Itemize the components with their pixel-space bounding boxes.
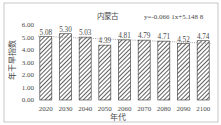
bar-value-label: 4.81	[118, 32, 131, 40]
chart-container: 0.001.002.003.004.005.006.00 5.085.305.0…	[0, 0, 221, 125]
bar-value-label: 5.08	[40, 29, 53, 37]
x-tick-label: 2090	[177, 105, 192, 113]
x-tick-label: 2030	[59, 105, 74, 113]
bar-value-label: 4.74	[197, 33, 210, 41]
y-tick-label: 5.00	[22, 34, 35, 42]
bar-2040	[79, 37, 91, 100]
bar-2080	[158, 41, 170, 100]
y-tick-label: 4.00	[22, 46, 35, 54]
bar-value-label: 4.71	[158, 33, 171, 41]
x-tick-label: 2040	[78, 105, 93, 113]
bar-2090	[178, 44, 190, 101]
x-tick-label: 2100	[196, 105, 211, 113]
bar-value-label: 4.39	[99, 37, 112, 45]
bar-2100	[197, 41, 209, 100]
y-tick-label: 3.00	[22, 59, 35, 67]
chart-title: 内蒙古	[97, 11, 119, 21]
x-tick-label: 2070	[137, 105, 152, 113]
x-axis-title: 年代	[110, 112, 126, 122]
trendline-equation: y=-0.066 1x+5.148 8	[144, 13, 204, 21]
y-axis-title: 年干旱指数	[7, 40, 17, 80]
y-tick-label: 0.00	[22, 96, 35, 104]
bars	[40, 34, 209, 100]
bar-chart: 0.001.002.003.004.005.006.00 5.085.305.0…	[0, 0, 221, 125]
bar-value-label: 4.79	[138, 32, 151, 40]
y-tick-label: 6.00	[22, 21, 35, 29]
x-tick-label: 2060	[118, 105, 133, 113]
x-tick-label: 2080	[157, 105, 172, 113]
x-tick-label: 2020	[39, 105, 54, 113]
y-tick-label: 1.00	[22, 84, 35, 92]
x-tick-label: 2050	[98, 105, 113, 113]
bar-2030	[60, 34, 72, 100]
bar-value-label: 4.52	[177, 36, 190, 44]
bar-value-label: 5.30	[59, 26, 72, 34]
y-tick-label: 2.00	[22, 71, 35, 79]
bar-2050	[99, 45, 111, 100]
bar-2070	[138, 40, 150, 100]
x-axis-ticks: 202020302040205020602070208020902100	[39, 105, 211, 113]
bar-value-label: 5.03	[79, 29, 92, 37]
bar-2060	[119, 40, 131, 100]
bar-2020	[40, 37, 52, 101]
